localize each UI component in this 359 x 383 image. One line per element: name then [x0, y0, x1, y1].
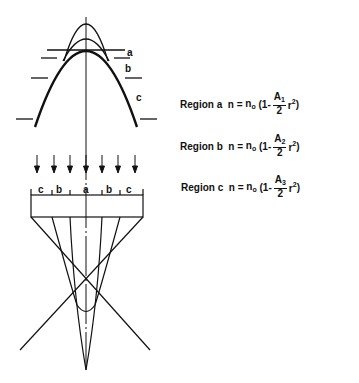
arrow-icon [52, 155, 57, 173]
equation-region-c: Region c n = no (1- A32 r2 ) [181, 175, 300, 199]
refracted-rays [20, 217, 150, 370]
arrow-icon [35, 155, 40, 173]
region-label: Region b [180, 141, 223, 152]
equation-region-a: Region a n = no (1- A12 r2 ) [180, 92, 299, 116]
r-squared: r2 [288, 98, 296, 111]
profile-label-c: c [136, 92, 142, 103]
n0: no [246, 140, 256, 152]
ray-c-left [31, 217, 150, 350]
arrow-icon [133, 155, 138, 173]
fraction: A12 [273, 92, 286, 116]
fraction: A32 [274, 175, 287, 199]
arrow-icon [68, 155, 73, 173]
equals: = [237, 141, 243, 152]
graded-index-lens-diagram: a b c c b a b c [0, 0, 359, 383]
equals: = [238, 182, 244, 193]
equation-region-b: Region b n = no (1- A22 r2 ) [180, 134, 300, 158]
symbol-n: n [228, 141, 234, 152]
lens-label-b-left: b [56, 184, 62, 195]
r-squared: r2 [288, 140, 296, 153]
equals: = [237, 99, 243, 110]
lens-body [31, 195, 143, 217]
paren-close: ) [296, 141, 299, 152]
r-squared: r2 [289, 181, 297, 194]
profile-label-a: a [127, 47, 133, 58]
lens-label-b-right: b [106, 184, 112, 195]
fraction: A22 [273, 134, 286, 158]
n0: no [246, 181, 256, 193]
profile-label-b: b [125, 63, 131, 74]
symbol-n: n [229, 182, 235, 193]
symbol-n: n [228, 99, 234, 110]
arrow-icon [100, 155, 105, 173]
index-profile [16, 17, 157, 140]
paren-close: ) [297, 182, 300, 193]
paren-open: (1- [259, 182, 271, 193]
paren-close: ) [296, 99, 299, 110]
lens-label-c-right: c [126, 184, 132, 195]
arrow-icon [116, 155, 121, 173]
lens-label-a: a [83, 184, 89, 195]
lens-label-c-left: c [38, 184, 44, 195]
region-label: Region c [181, 182, 223, 193]
n0: no [245, 98, 255, 110]
diagram-root: a b c c b a b c Region a n = no (1- A12 [0, 0, 359, 383]
lens [31, 140, 143, 370]
paren-open: (1- [258, 99, 270, 110]
ray-c-right [20, 217, 143, 350]
region-label: Region a [180, 99, 222, 110]
paren-open: (1- [259, 141, 271, 152]
